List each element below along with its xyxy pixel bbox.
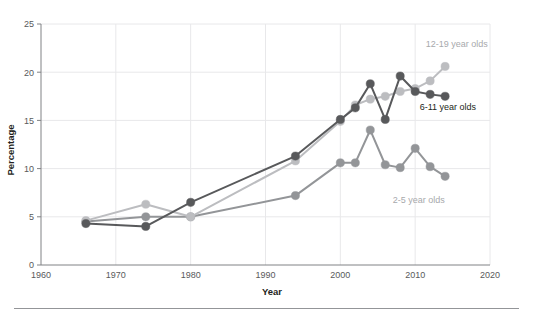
data-point-marker: [187, 198, 195, 206]
data-point-marker: [351, 159, 359, 167]
x-axis-tick-label: 2010: [405, 270, 425, 280]
data-point-marker: [426, 163, 434, 171]
y-axis-tick-label: 10: [24, 164, 34, 174]
data-point-marker: [441, 172, 449, 180]
data-point-marker: [396, 72, 404, 80]
line-chart: 0510152025 1960197019801990200020102020 …: [0, 0, 533, 316]
x-axis-tick-label: 1990: [255, 270, 275, 280]
data-point-marker: [396, 87, 404, 95]
data-point-marker: [396, 164, 404, 172]
data-point-marker: [366, 80, 374, 88]
y-axis-tick-label: 0: [29, 260, 34, 270]
x-axis-tick-label: 1960: [31, 270, 51, 280]
data-point-marker: [142, 200, 150, 208]
data-point-marker: [336, 159, 344, 167]
series-label: 6-11 year olds: [420, 102, 477, 112]
x-axis-tick-label: 1970: [106, 270, 126, 280]
series-label: 12-19 year olds: [426, 39, 489, 49]
series-label: 2-5 year olds: [393, 195, 446, 205]
data-point-marker: [142, 213, 150, 221]
data-point-marker: [366, 126, 374, 134]
data-point-marker: [336, 115, 344, 123]
data-point-marker: [441, 92, 449, 100]
data-point-marker: [426, 77, 434, 85]
data-point-marker: [187, 213, 195, 221]
y-axis-tick-label: 20: [24, 68, 34, 78]
y-axis-title: Percentage: [5, 124, 16, 175]
x-axis-tick-label: 1980: [181, 270, 201, 280]
data-point-marker: [441, 62, 449, 70]
x-axis-tick-label: 2000: [330, 270, 350, 280]
data-point-marker: [411, 144, 419, 152]
chart-container: 0510152025 1960197019801990200020102020 …: [0, 0, 533, 316]
data-point-marker: [381, 92, 389, 100]
data-point-marker: [291, 152, 299, 160]
data-point-marker: [366, 95, 374, 103]
data-point-marker: [142, 222, 150, 230]
data-point-marker: [426, 90, 434, 98]
data-point-marker: [381, 115, 389, 123]
y-axis-tick-label: 5: [29, 212, 34, 222]
x-axis-title: Year: [262, 286, 282, 297]
x-axis-tick-label: 2020: [480, 270, 500, 280]
y-axis-tick-label: 25: [24, 19, 34, 29]
data-point-marker: [411, 87, 419, 95]
y-axis-tick-label: 15: [24, 116, 34, 126]
data-point-marker: [82, 219, 90, 227]
data-point-marker: [381, 161, 389, 169]
data-point-marker: [291, 191, 299, 199]
data-point-marker: [351, 104, 359, 112]
